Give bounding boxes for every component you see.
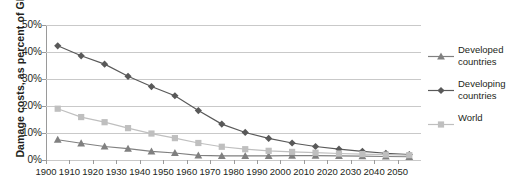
data-point-marker xyxy=(78,52,85,59)
data-point-marker xyxy=(242,129,249,136)
x-axis-tick-label: 1940 xyxy=(129,166,150,177)
data-point-marker xyxy=(265,135,272,142)
legend-label: Developedcountries xyxy=(458,44,516,67)
y-axis-tick-label: 0% xyxy=(2,154,42,165)
legend-item-developed-countries[interactable]: Developedcountries xyxy=(428,44,516,67)
data-point-marker xyxy=(125,125,131,131)
legend-label: World xyxy=(458,112,516,124)
y-axis-tick-labels: 0%10%20%30%40%50% xyxy=(0,25,42,160)
y-axis-tick-mark xyxy=(42,133,46,134)
legend-item-world[interactable]: World xyxy=(428,112,516,124)
data-point-marker xyxy=(383,152,389,158)
x-axis-tick-mark xyxy=(327,160,328,164)
data-point-marker xyxy=(101,119,107,125)
series-world xyxy=(55,106,413,159)
x-axis-tick-label: 1900 xyxy=(35,166,56,177)
data-point-marker xyxy=(312,143,319,150)
x-axis-tick-label: 1910 xyxy=(59,166,80,177)
y-axis-tick-mark xyxy=(42,79,46,80)
x-axis-tick-mark xyxy=(93,160,94,164)
data-point-marker xyxy=(242,146,248,152)
x-axis-tick-mark xyxy=(234,160,235,164)
square-marker xyxy=(428,116,454,127)
data-point-marker xyxy=(55,106,61,112)
data-point-marker xyxy=(195,140,201,146)
x-axis-tick-mark xyxy=(140,160,141,164)
legend-label: Developingcountries xyxy=(458,78,516,101)
data-point-marker xyxy=(266,148,272,154)
data-point-marker xyxy=(171,92,178,99)
x-axis-tick-label: 2030 xyxy=(340,166,361,177)
x-axis-tick-mark xyxy=(257,160,258,164)
y-axis-tick-label: 50% xyxy=(2,19,42,30)
data-point-marker xyxy=(54,42,61,49)
y-axis-tick-label: 10% xyxy=(2,127,42,138)
x-axis-tick-label: 1950 xyxy=(153,166,174,177)
x-axis-tick-mark xyxy=(46,160,47,164)
x-axis-tick-mark xyxy=(374,160,375,164)
x-axis-tick-mark xyxy=(116,160,117,164)
x-axis-tick-label: 1980 xyxy=(223,166,244,177)
data-point-marker xyxy=(288,139,295,146)
data-point-marker xyxy=(219,144,225,150)
x-axis-tick-label: 2020 xyxy=(317,166,338,177)
x-axis-tick-mark xyxy=(304,160,305,164)
x-axis-tick-label: 1970 xyxy=(199,166,220,177)
data-point-marker xyxy=(124,73,131,80)
x-axis-tick-mark xyxy=(351,160,352,164)
data-point-marker xyxy=(148,83,155,90)
x-axis-tick-label: 2050 xyxy=(387,166,408,177)
data-point-marker xyxy=(312,150,318,156)
data-point-marker xyxy=(336,150,342,156)
series-developing-countries xyxy=(54,42,413,158)
data-point-marker xyxy=(289,149,295,155)
chart-container: Damage costs, as percent of GDP 0%10%20%… xyxy=(0,0,516,193)
x-axis-tick-mark xyxy=(398,160,399,164)
y-axis-tick-mark xyxy=(42,25,46,26)
y-axis-tick-label: 20% xyxy=(2,100,42,111)
x-axis-tick-label: 1930 xyxy=(106,166,127,177)
y-axis-tick-label: 40% xyxy=(2,46,42,57)
data-point-marker xyxy=(78,114,84,120)
x-axis-tick-label: 2010 xyxy=(293,166,314,177)
data-point-marker xyxy=(218,120,225,127)
x-axis-tick-mark xyxy=(187,160,188,164)
y-axis-tick-label: 30% xyxy=(2,73,42,84)
chart-legend: DevelopedcountriesDevelopingcountriesWor… xyxy=(428,44,516,135)
x-axis-tick-mark xyxy=(163,160,164,164)
data-point-marker xyxy=(54,136,62,143)
data-point-marker xyxy=(101,61,108,68)
x-axis-tick-mark xyxy=(69,160,70,164)
x-axis-tick-label: 1990 xyxy=(246,166,267,177)
x-axis-tick-mark xyxy=(280,160,281,164)
diamond-marker xyxy=(428,82,454,93)
data-point-marker xyxy=(148,130,154,136)
x-axis-tick-label: 1960 xyxy=(176,166,197,177)
x-axis-tick-labels: 1900191019201930194019501960197019801990… xyxy=(46,166,421,182)
legend-item-developing-countries[interactable]: Developingcountries xyxy=(428,78,516,101)
y-axis-tick-mark xyxy=(42,52,46,53)
x-axis-tick-mark xyxy=(210,160,211,164)
x-axis-tick-label: 1920 xyxy=(82,166,103,177)
data-point-marker xyxy=(195,107,202,114)
series-line xyxy=(58,109,410,155)
series-line xyxy=(58,46,410,155)
x-axis-tick-label: 2040 xyxy=(364,166,385,177)
data-point-marker xyxy=(359,151,365,157)
series-layer xyxy=(46,25,421,160)
x-axis-tick-label: 2000 xyxy=(270,166,291,177)
y-axis-tick-mark xyxy=(42,106,46,107)
data-point-marker xyxy=(406,152,412,158)
triangle-marker xyxy=(428,48,454,59)
data-point-marker xyxy=(172,135,178,141)
